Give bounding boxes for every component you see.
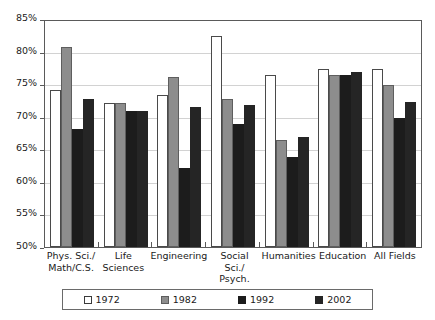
legend-swatch-icon-1972 bbox=[84, 296, 92, 304]
y-axis-tick: 80% bbox=[0, 53, 44, 54]
bar-1982[interactable] bbox=[222, 99, 233, 248]
x-axis-label: Life Sciences bbox=[97, 250, 149, 284]
bar-1982[interactable] bbox=[329, 75, 340, 247]
bar-1992[interactable] bbox=[287, 157, 298, 247]
bar-1972[interactable] bbox=[211, 36, 222, 247]
x-axis-labels: Phys. Sci./Math/C.S.Life SciencesEnginee… bbox=[45, 250, 421, 284]
x-axis-label: Social Sci./Psych. bbox=[208, 250, 260, 284]
y-axis-tick-label: 80% bbox=[16, 46, 37, 56]
chart-legend: 1972 1982 1992 2002 bbox=[62, 289, 373, 310]
bar-2002[interactable] bbox=[298, 137, 309, 247]
legend-item-2002[interactable]: 2002 bbox=[295, 295, 372, 305]
legend-swatch-icon-2002 bbox=[315, 296, 323, 304]
bar-group bbox=[314, 21, 368, 247]
bar-1982[interactable] bbox=[383, 85, 394, 247]
y-axis-tick-mark bbox=[40, 248, 44, 249]
bar-1972[interactable] bbox=[372, 69, 383, 247]
y-axis-tick-label: 55% bbox=[16, 208, 37, 218]
y-axis-tick-label: 75% bbox=[16, 78, 37, 88]
legend-label-1992: 1992 bbox=[250, 295, 274, 305]
legend-label-1982: 1982 bbox=[173, 295, 197, 305]
bar-group bbox=[367, 21, 421, 247]
y-axis-tick-label: 65% bbox=[16, 143, 37, 153]
y-axis-tick: 55% bbox=[0, 215, 44, 216]
bar-1972[interactable] bbox=[104, 103, 115, 247]
bar-1982[interactable] bbox=[276, 140, 287, 247]
bar-1992[interactable] bbox=[340, 75, 351, 247]
y-axis-tick-label: 70% bbox=[16, 111, 37, 121]
bar-1992[interactable] bbox=[179, 168, 190, 247]
x-axis-label: Humanities bbox=[261, 250, 317, 284]
bar-1992[interactable] bbox=[394, 118, 405, 247]
bar-1992[interactable] bbox=[72, 129, 83, 247]
bar-2002[interactable] bbox=[405, 102, 416, 247]
bar-group bbox=[45, 21, 99, 247]
legend-item-1982[interactable]: 1982 bbox=[140, 295, 217, 305]
y-axis-tick: 75% bbox=[0, 85, 44, 86]
y-axis-tick-label: 85% bbox=[16, 13, 37, 23]
bar-2002[interactable] bbox=[351, 72, 362, 247]
bar-group bbox=[99, 21, 153, 247]
bar-1972[interactable] bbox=[318, 69, 329, 247]
x-axis-label: Education bbox=[317, 250, 369, 284]
y-axis-tick: 60% bbox=[0, 183, 44, 184]
y-axis: 85%80%75%70%65%60%55%50% bbox=[0, 0, 44, 268]
bar-1972[interactable] bbox=[157, 95, 168, 247]
bar-group bbox=[206, 21, 260, 247]
legend-item-1972[interactable]: 1972 bbox=[63, 295, 140, 305]
bar-1972[interactable] bbox=[265, 75, 276, 247]
bar-1992[interactable] bbox=[126, 111, 137, 247]
legend-item-1992[interactable]: 1992 bbox=[218, 295, 295, 305]
bar-chart: 85%80%75%70%65%60%55%50% Phys. Sci./Math… bbox=[0, 0, 435, 320]
bar-group bbox=[152, 21, 206, 247]
y-axis-tick: 85% bbox=[0, 20, 44, 21]
legend-label-1972: 1972 bbox=[96, 295, 120, 305]
y-axis-tick: 65% bbox=[0, 150, 44, 151]
x-axis-label: Engineering bbox=[149, 250, 208, 284]
legend-swatch-icon-1992 bbox=[238, 296, 246, 304]
y-axis-tick-label: 50% bbox=[16, 241, 37, 251]
bar-2002[interactable] bbox=[190, 107, 201, 247]
bar-1972[interactable] bbox=[50, 90, 61, 247]
x-axis-label: All Fields bbox=[369, 250, 421, 284]
legend-label-2002: 2002 bbox=[327, 295, 351, 305]
y-axis-tick: 50% bbox=[0, 248, 44, 249]
bar-1982[interactable] bbox=[61, 47, 72, 247]
x-axis-label: Phys. Sci./Math/C.S. bbox=[45, 250, 97, 284]
bar-group bbox=[260, 21, 314, 247]
bar-groups bbox=[45, 21, 421, 247]
bar-2002[interactable] bbox=[83, 99, 94, 248]
bar-1982[interactable] bbox=[168, 77, 179, 247]
bar-1982[interactable] bbox=[115, 103, 126, 247]
legend-swatch-icon-1982 bbox=[161, 296, 169, 304]
y-axis-tick-label: 60% bbox=[16, 176, 37, 186]
bar-2002[interactable] bbox=[137, 111, 148, 247]
bar-1992[interactable] bbox=[233, 124, 244, 247]
bar-2002[interactable] bbox=[244, 105, 255, 247]
y-axis-tick: 70% bbox=[0, 118, 44, 119]
